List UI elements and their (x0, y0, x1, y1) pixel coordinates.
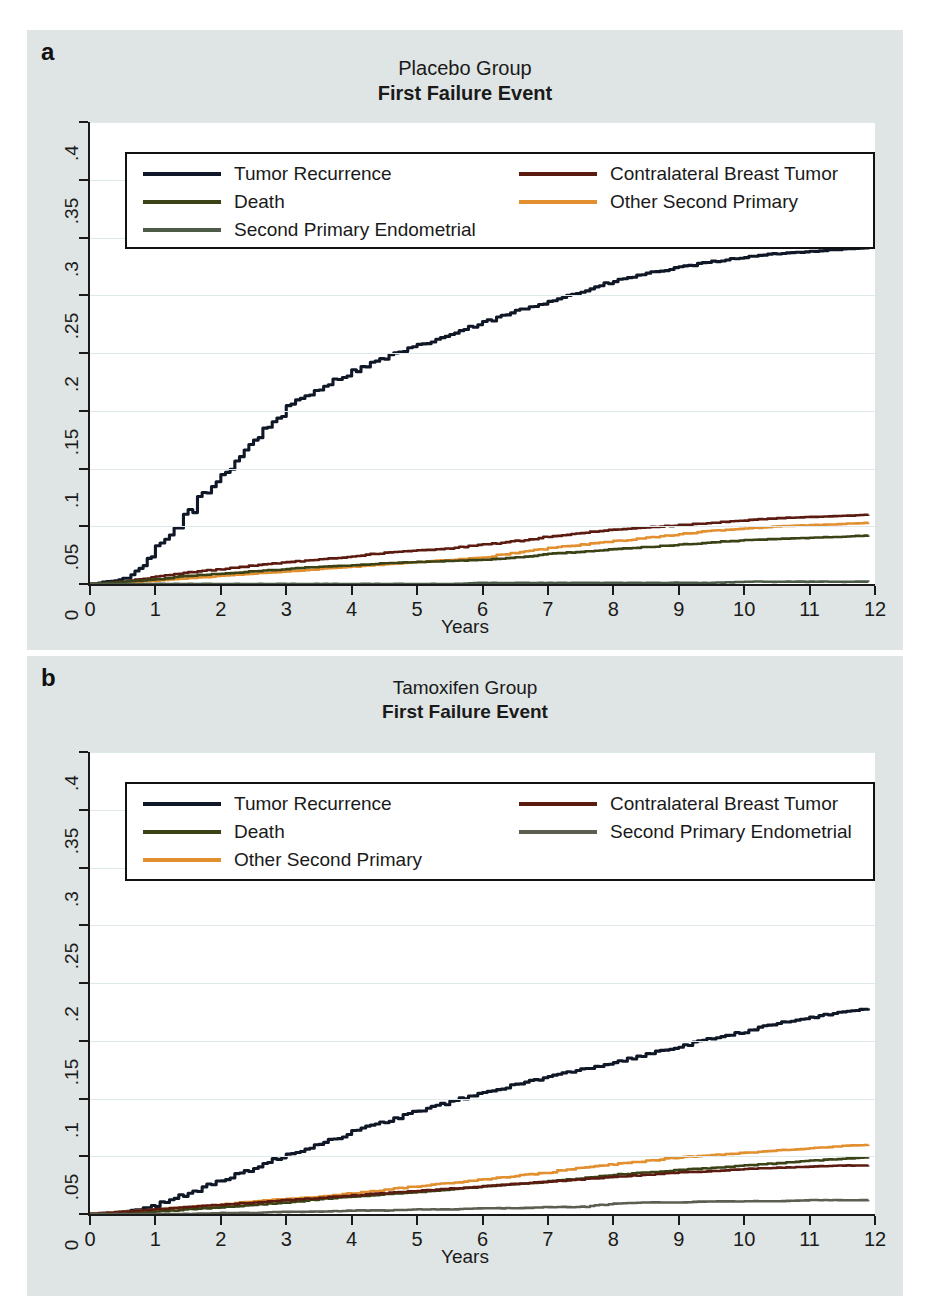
panel-a-legend-item: Tumor Recurrence (143, 160, 476, 188)
legend-line-swatch-icon (143, 172, 221, 176)
panel-a-legend-item: Death (143, 188, 476, 216)
y-axis-tick-label: .15 (61, 412, 83, 472)
y-axis-tick-label: .2 (61, 984, 83, 1044)
y-axis-tick-label: .4 (61, 753, 83, 813)
gridline (90, 353, 875, 354)
x-axis-tick (416, 586, 418, 595)
y-axis-tick-label: .05 (61, 527, 83, 587)
gridline (90, 526, 875, 527)
x-axis-tick (482, 1216, 484, 1225)
panel-b-title: Tamoxifen Group First Failure Event (27, 676, 903, 724)
x-axis-tick (220, 1216, 222, 1225)
curve-tumor-recurrence (90, 1008, 868, 1213)
x-axis-tick (351, 1216, 353, 1225)
legend-item-label: Tumor Recurrence (234, 793, 392, 815)
x-axis-tick (612, 1216, 614, 1225)
x-axis-tick (874, 586, 876, 595)
legend-item-label: Contralateral Breast Tumor (610, 163, 838, 185)
legend-line-swatch-icon (143, 830, 221, 834)
y-axis-tick-label: .4 (61, 123, 83, 183)
legend-item-label: Contralateral Breast Tumor (610, 793, 838, 815)
legend-item-label: Death (234, 191, 285, 213)
legend-item-label: Other Second Primary (610, 191, 798, 213)
panel-b-xaxis-title: Years (27, 1246, 903, 1268)
panel-b-title-line2: First Failure Event (27, 700, 903, 724)
x-axis-tick (416, 1216, 418, 1225)
panel-b-legend-right-column: Contralateral Breast TumorSecond Primary… (519, 790, 852, 846)
y-axis-tick-label: .1 (61, 1100, 83, 1160)
y-axis-tick-label: .05 (61, 1157, 83, 1217)
panel-a-xaxis-title: Years (27, 616, 903, 638)
panel-a-legend-item: Other Second Primary (519, 188, 838, 216)
x-axis-tick (547, 1216, 549, 1225)
legend-line-swatch-icon (519, 802, 597, 806)
x-axis-tick (678, 1216, 680, 1225)
gridline (90, 1099, 875, 1100)
legend-line-swatch-icon (143, 858, 221, 862)
legend-line-swatch-icon (143, 228, 221, 232)
panel-b-legend-item: Other Second Primary (143, 846, 422, 874)
legend-item-label: Second Primary Endometrial (234, 219, 476, 241)
x-axis-tick (678, 586, 680, 595)
x-axis-tick (220, 586, 222, 595)
legend-item-label: Second Primary Endometrial (610, 821, 852, 843)
x-axis-tick (285, 586, 287, 595)
x-axis-tick (154, 1216, 156, 1225)
x-axis-tick (482, 586, 484, 595)
gridline (90, 122, 875, 123)
legend-line-swatch-icon (143, 802, 221, 806)
panel-b-legend-item: Contralateral Breast Tumor (519, 790, 852, 818)
x-axis-tick (285, 1216, 287, 1225)
legend-line-swatch-icon (519, 830, 597, 834)
curve-tumor-recurrence (90, 248, 868, 584)
panel-a-title-line2: First Failure Event (27, 81, 903, 106)
y-axis-tick-label: .35 (61, 811, 83, 871)
legend-item-label: Tumor Recurrence (234, 163, 392, 185)
y-axis-line (88, 752, 90, 1214)
x-axis-tick (809, 586, 811, 595)
gridline (90, 983, 875, 984)
panel-b: b Tamoxifen Group First Failure Event 0.… (27, 656, 903, 1296)
gridline (90, 469, 875, 470)
x-axis-tick (743, 586, 745, 595)
panel-a-legend-item: Second Primary Endometrial (143, 216, 476, 244)
panel-b-legend-item: Death (143, 818, 422, 846)
panel-b-legend: Tumor RecurrenceDeathOther Second Primar… (125, 782, 875, 881)
legend-item-label: Death (234, 821, 285, 843)
x-axis-tick (351, 586, 353, 595)
panel-a-title-line1: Placebo Group (27, 56, 903, 81)
y-axis-tick-label: .2 (61, 354, 83, 414)
y-axis-line (88, 122, 90, 584)
gridline (90, 925, 875, 926)
figure-root: a Placebo Group First Failure Event 0.05… (0, 0, 939, 1307)
x-axis-tick (809, 1216, 811, 1225)
panel-b-legend-left-column: Tumor RecurrenceDeathOther Second Primar… (143, 790, 422, 874)
panel-b-title-line1: Tamoxifen Group (27, 676, 903, 700)
x-axis-tick (154, 586, 156, 595)
y-axis-tick-label: .3 (61, 869, 83, 929)
panel-a: a Placebo Group First Failure Event 0.05… (27, 30, 903, 650)
gridline (90, 752, 875, 753)
gridline (90, 1041, 875, 1042)
gridline (90, 1156, 875, 1157)
x-axis-tick (874, 1216, 876, 1225)
panel-a-legend: Tumor RecurrenceDeathSecond Primary Endo… (125, 152, 875, 249)
panel-a-legend-right-column: Contralateral Breast TumorOther Second P… (519, 160, 838, 216)
x-axis-tick (547, 586, 549, 595)
y-axis-tick-label: .35 (61, 181, 83, 241)
x-axis-tick (89, 586, 91, 595)
gridline (90, 411, 875, 412)
curve-contralateral-breast-tumor (90, 1165, 868, 1214)
curve-other-second-primary (90, 1145, 868, 1214)
legend-line-swatch-icon (519, 172, 597, 176)
gridline (90, 295, 875, 296)
x-axis-tick (89, 1216, 91, 1225)
x-axis-tick (612, 586, 614, 595)
y-axis-tick-label: .25 (61, 296, 83, 356)
panel-a-legend-item: Contralateral Breast Tumor (519, 160, 838, 188)
panel-a-title: Placebo Group First Failure Event (27, 56, 903, 106)
panel-a-legend-left-column: Tumor RecurrenceDeathSecond Primary Endo… (143, 160, 476, 244)
legend-line-swatch-icon (143, 200, 221, 204)
legend-line-swatch-icon (519, 200, 597, 204)
y-axis-tick-label: .15 (61, 1042, 83, 1102)
